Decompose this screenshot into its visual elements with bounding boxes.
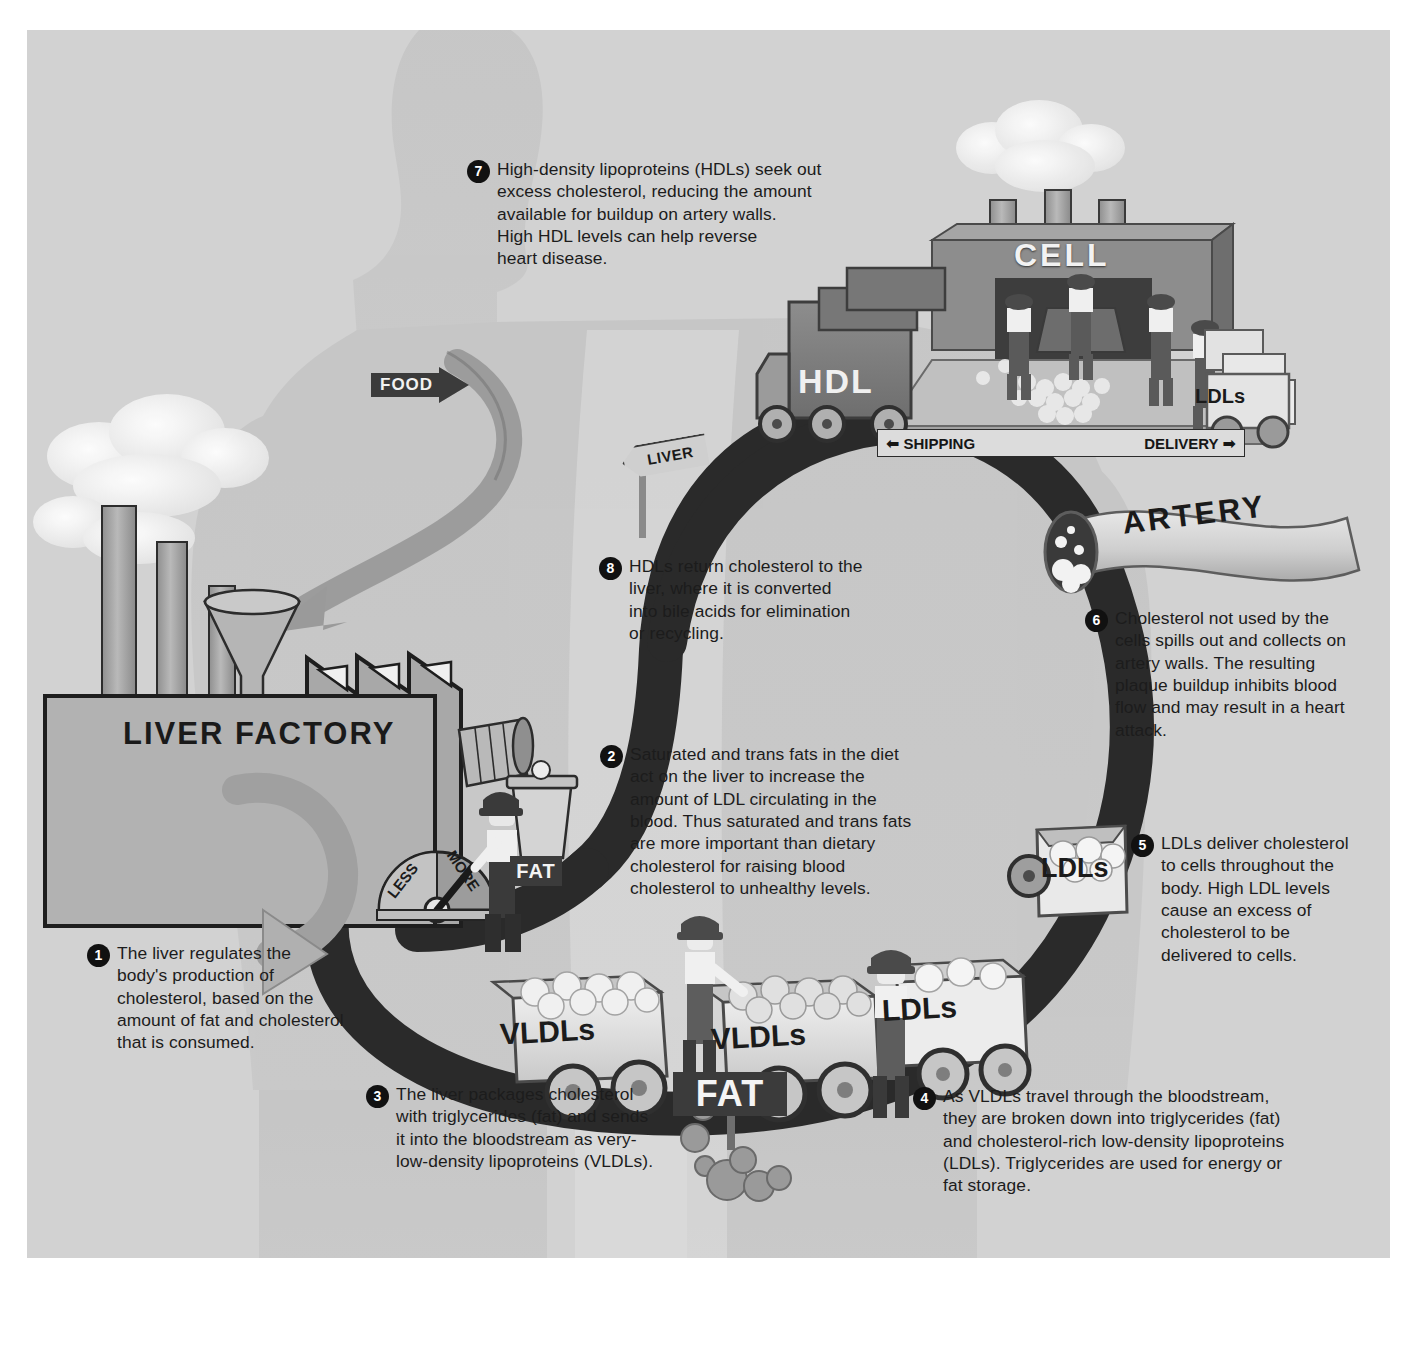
step-number-badge: 7 xyxy=(467,160,490,183)
callout-step-2: 2 Saturated and trans fats in the diet a… xyxy=(600,743,980,900)
callout-step-1: 1 The liver regulates the body's product… xyxy=(87,942,387,1054)
step-number-badge: 6 xyxy=(1085,609,1108,632)
callout-step-8: 8 HDLs return cholesterol to the liver, … xyxy=(599,555,939,644)
arrow-left-icon: ⬅ xyxy=(886,434,899,453)
step-number-badge: 8 xyxy=(599,557,622,580)
fat-sign-gauge: FAT xyxy=(510,856,562,886)
dock-bar: ⬅ SHIPPING DELIVERY ➡ xyxy=(877,429,1245,457)
ldls-truck-artery-label: LDLs xyxy=(1041,853,1109,884)
ldls-truck-cell-label: LDLs xyxy=(1195,385,1245,408)
step-text: Cholesterol not used by the cells spills… xyxy=(1115,607,1346,741)
arrow-right-icon: ➡ xyxy=(1223,434,1236,453)
hdl-truck-label: HDL xyxy=(798,362,874,401)
step-text: High-density lipoproteins (HDLs) seek ou… xyxy=(497,158,821,270)
step-text: LDLs deliver cholesterol to cells throug… xyxy=(1161,832,1349,966)
step-text: As VLDLs travel through the bloodstream,… xyxy=(943,1085,1284,1197)
step-number-badge: 4 xyxy=(913,1087,936,1110)
step-number-badge: 2 xyxy=(600,745,623,768)
food-label: FOOD xyxy=(380,375,433,395)
step-number-badge: 1 xyxy=(87,944,110,967)
callout-step-7: 7 High-density lipoproteins (HDLs) seek … xyxy=(467,158,897,270)
callout-step-3: 3 The liver packages cholesterol with tr… xyxy=(366,1083,746,1172)
infographic-canvas: LIVER FACTORY CELL ARTERY FOOD LIVER ⬅ S… xyxy=(27,30,1390,1258)
delivery-label: DELIVERY ➡ xyxy=(1144,434,1236,453)
shipping-label: ⬅ SHIPPING xyxy=(886,434,975,453)
callout-step-4: 4 As VLDLs travel through the bloodstrea… xyxy=(913,1085,1363,1197)
step-number-badge: 3 xyxy=(366,1085,389,1108)
vldls-cart-1-label: VLDLs xyxy=(499,1013,596,1052)
step-number-badge: 5 xyxy=(1131,834,1154,857)
ldls-cart-label: LDLs xyxy=(881,990,958,1028)
step-text: HDLs return cholesterol to the liver, wh… xyxy=(629,555,863,644)
vldls-cart-2-label: VLDLs xyxy=(710,1018,807,1057)
step-text: The liver packages cholesterol with trig… xyxy=(396,1083,653,1172)
callout-step-6: 6 Cholesterol not used by the cells spil… xyxy=(1085,607,1365,741)
liver-factory-label: LIVER FACTORY xyxy=(123,716,395,752)
cell-label: CELL xyxy=(1014,237,1110,274)
step-text: Saturated and trans fats in the diet act… xyxy=(630,743,911,900)
callout-step-5: 5 LDLs deliver cholesterol to cells thro… xyxy=(1131,832,1371,966)
step-text: The liver regulates the body's productio… xyxy=(117,942,344,1054)
